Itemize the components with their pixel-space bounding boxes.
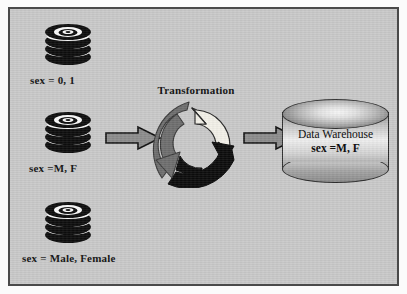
database-stack-icon xyxy=(46,113,90,153)
source-label-3: sex = Male, Female xyxy=(22,252,116,264)
source-node-2: sex =M, F xyxy=(46,113,90,174)
database-stack-icon xyxy=(46,203,90,243)
transformation-label: Transformation xyxy=(157,84,234,96)
diagram-canvas: sex = 0, 1 sex =M, F xyxy=(0,0,407,294)
data-warehouse-node: Data Warehouse sex =M, F xyxy=(282,99,389,183)
source-node-1: sex = 0, 1 xyxy=(46,25,90,86)
source-label-1: sex = 0, 1 xyxy=(30,74,90,86)
source-label-2: sex =M, F xyxy=(29,162,90,174)
warehouse-title: Data Warehouse xyxy=(282,127,389,141)
warehouse-text: Data Warehouse sex =M, F xyxy=(282,127,389,155)
cylinder-top xyxy=(282,99,389,129)
transformation-group: Transformation xyxy=(146,84,246,188)
warehouse-subtitle: sex =M, F xyxy=(282,141,389,155)
diagram-frame: sex = 0, 1 sex =M, F xyxy=(8,7,399,286)
recycle-arrows-icon xyxy=(146,98,246,188)
database-stack-icon xyxy=(46,25,90,65)
source-node-3: sex = Male, Female xyxy=(46,203,116,264)
